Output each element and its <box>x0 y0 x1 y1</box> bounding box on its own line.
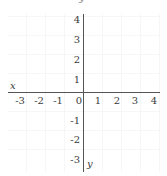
top-label-fragment: y <box>79 0 85 3</box>
y-axis-label: y <box>87 159 93 169</box>
gridline <box>8 54 160 55</box>
gridline <box>8 73 160 74</box>
x-axis <box>8 92 160 93</box>
gridline <box>8 111 160 112</box>
y-tick-label: -1 <box>68 116 80 126</box>
y-tick-label: -3 <box>68 155 80 165</box>
x-tick-label: 0 <box>72 96 86 106</box>
y-tick-label: 1 <box>68 75 80 85</box>
coordinate-plane: y x y -3 -2 -1 0 1 2 3 4 4 3 2 1 -1 -2 -… <box>0 0 167 176</box>
gridline <box>8 35 160 36</box>
x-tick-label: 4 <box>147 96 161 106</box>
x-tick-label: 1 <box>91 96 105 106</box>
x-tick-label: -3 <box>13 96 27 106</box>
x-tick-label: 2 <box>110 96 124 106</box>
x-tick-label: 3 <box>128 96 142 106</box>
x-axis-label: x <box>10 81 16 91</box>
x-tick-label: -1 <box>51 96 65 106</box>
y-axis <box>83 14 84 172</box>
gridline <box>8 149 160 150</box>
x-tick-label: -2 <box>32 96 46 106</box>
y-tick-label: -2 <box>68 135 80 145</box>
gridline <box>8 16 160 17</box>
y-tick-label: 3 <box>68 35 80 45</box>
y-tick-label: 4 <box>68 15 80 25</box>
gridline <box>8 130 160 131</box>
y-tick-label: 2 <box>68 55 80 65</box>
